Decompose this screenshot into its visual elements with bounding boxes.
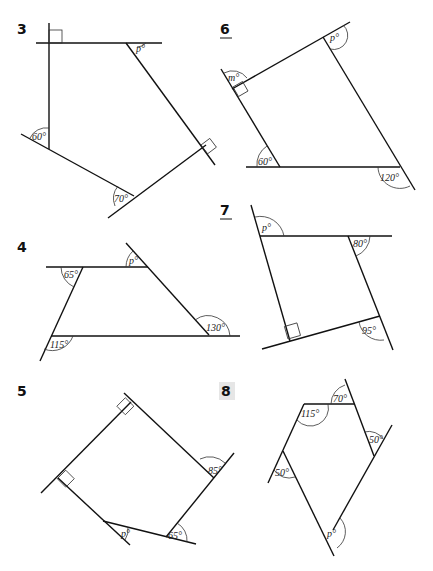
svg-text:80°: 80° bbox=[353, 238, 367, 249]
svg-text:60°: 60° bbox=[32, 131, 46, 142]
svg-text:65°: 65° bbox=[168, 530, 182, 541]
svg-text:70°: 70° bbox=[114, 193, 128, 204]
svg-text:130°: 130° bbox=[206, 322, 225, 333]
svg-text:70°: 70° bbox=[333, 393, 347, 404]
problem-number: 7 bbox=[220, 202, 230, 218]
svg-text:p°: p° bbox=[261, 222, 271, 233]
problem-5: 5 85° p° 65° bbox=[17, 383, 234, 545]
problem-number: 3 bbox=[17, 21, 27, 37]
svg-text:95°: 95° bbox=[362, 325, 376, 336]
svg-text:p°: p° bbox=[329, 32, 339, 43]
svg-text:65°: 65° bbox=[64, 269, 78, 280]
svg-text:85°: 85° bbox=[208, 465, 222, 476]
svg-text:p°: p° bbox=[120, 528, 130, 539]
geometry-figures: 3 p° 60° 70° 6 m° p° 60° 120° 4 bbox=[0, 0, 433, 571]
svg-text:120°: 120° bbox=[380, 172, 399, 183]
svg-text:m°: m° bbox=[228, 72, 239, 83]
svg-text:50°: 50° bbox=[369, 434, 383, 445]
problem-number: 8 bbox=[221, 383, 231, 399]
svg-text:50°: 50° bbox=[275, 467, 289, 478]
svg-text:p°: p° bbox=[135, 43, 145, 54]
problem-4: 4 65° p° 115° 130° bbox=[17, 239, 240, 361]
svg-text:p°: p° bbox=[326, 528, 336, 539]
svg-text:60°: 60° bbox=[258, 156, 272, 167]
problem-number: 6 bbox=[220, 21, 230, 37]
problem-number: 5 bbox=[17, 383, 27, 399]
problem-3: 3 p° 60° 70° bbox=[17, 21, 216, 218]
problem-7: 7 p° 80° 95° bbox=[220, 202, 393, 350]
problem-number: 4 bbox=[17, 239, 27, 255]
svg-text:115°: 115° bbox=[50, 339, 68, 350]
problem-6: 6 m° p° 60° 120° bbox=[220, 21, 415, 190]
problem-8: 8 70° 115° 50° 50° p° bbox=[219, 379, 392, 556]
svg-text:p°: p° bbox=[128, 255, 138, 266]
svg-text:115°: 115° bbox=[301, 408, 319, 419]
